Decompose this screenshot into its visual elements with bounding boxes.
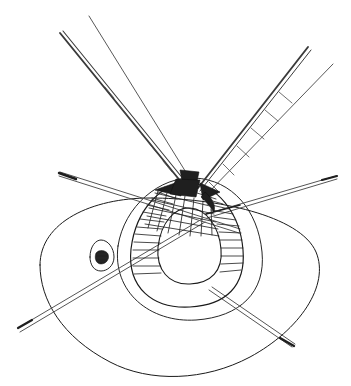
line-drawing-svg: Technical line drawing of deployed space… — [0, 0, 351, 386]
detail-marking-blob — [95, 250, 108, 264]
figure-canvas: Technical line drawing of deployed space… — [0, 0, 351, 386]
